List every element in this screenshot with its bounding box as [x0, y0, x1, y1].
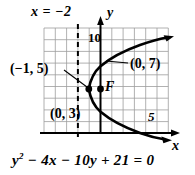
focus-label: F	[105, 80, 114, 94]
point-03-coordinate-label: (0, 3)	[50, 107, 80, 121]
vertex-leader-line	[64, 70, 87, 87]
x-axis	[40, 130, 180, 137]
equation-remainder: − 4x − 10y + 21 = 0	[24, 152, 154, 168]
parabola-figure: x = −2 y x 10 5 (−1, 5) (0, 7) (0, 3) F …	[0, 0, 195, 175]
y-axis-label: y	[107, 6, 113, 20]
equation-label: y2 − 4x − 10y + 21 = 0	[12, 152, 154, 168]
y-tick-label-10: 10	[88, 31, 101, 44]
upper-branch-arrowhead	[164, 35, 174, 41]
point-07-coordinate-label: (0, 7)	[130, 57, 160, 71]
graph-canvas	[0, 0, 195, 175]
vertex-coordinate-label: (−1, 5)	[10, 62, 48, 76]
focus-point-marker	[97, 86, 104, 93]
equation-variable: y	[12, 152, 19, 168]
vertex-point-marker	[85, 86, 92, 93]
x-axis-label: x	[172, 139, 179, 153]
lower-branch-arrowhead	[161, 137, 172, 144]
directrix-label: x = −2	[31, 5, 71, 19]
x-tick-label-5: 5	[148, 110, 155, 123]
